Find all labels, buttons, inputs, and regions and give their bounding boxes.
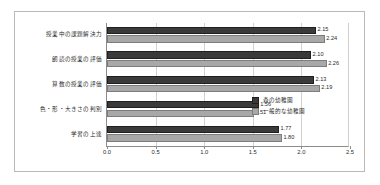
bar-value-label: 2.24 [326, 36, 337, 42]
legend-item: 一般的な幼稚園 [252, 108, 305, 115]
category-label: 朗読の授業の評価 [52, 57, 102, 63]
category-row: 学習の上達1.771.80 [107, 122, 348, 147]
bar-series-a: 2.10 [107, 51, 311, 58]
x-axis-tick-label: 1.0 [200, 150, 208, 156]
bar-series-a: 2.13 [107, 76, 314, 83]
bar-series-b: 2.24 [107, 35, 325, 42]
x-axis-tick-label: 0.5 [152, 150, 160, 156]
legend-label: 一般的な幼稚園 [263, 109, 305, 115]
bar-value-label: 1.80 [283, 135, 294, 141]
category-row: 算数の授業の評価2.132.19 [107, 73, 348, 98]
x-axis-tick-label: 2.0 [297, 150, 305, 156]
x-axis-tick-label: 0.0 [103, 150, 111, 156]
category-row: 授業中の課題解決力2.152.24 [107, 23, 348, 48]
bar-series-a: 1.77 [107, 126, 279, 133]
category-label: 色・形・大きさの判別 [40, 107, 102, 113]
x-axis-tick-label: 2.5 [346, 150, 354, 156]
bar-series-b: 1.51 [107, 110, 254, 117]
bar-value-label: 1.77 [281, 127, 292, 133]
legend: 森の幼稚園一般的な幼稚園 [252, 97, 305, 115]
category-label: 授業中の課題解決力 [46, 33, 102, 39]
bar-series-b: 2.26 [107, 60, 327, 67]
bar-series-b: 2.19 [107, 85, 320, 92]
bar-value-label: 2.15 [317, 27, 328, 33]
legend-label: 森の幼稚園 [263, 98, 293, 104]
plot-area: 0.00.51.01.52.02.5授業中の課題解決力2.152.24朗読の授業… [106, 23, 349, 147]
x-axis-tick-label: 1.5 [249, 150, 257, 156]
bar-series-b: 1.80 [107, 134, 282, 141]
bar-value-label: 2.13 [316, 77, 327, 83]
chart-card: 0.00.51.01.52.02.5授業中の課題解決力2.152.24朗読の授業… [14, 11, 365, 172]
legend-swatch-icon [252, 108, 259, 115]
bar-value-label: 2.10 [313, 52, 324, 58]
bar-value-label: 2.19 [321, 86, 332, 92]
bar-series-a: 2.15 [107, 27, 316, 34]
category-row: 色・形・大きさの判別1.561.51 [107, 97, 348, 122]
bar-value-label: 2.26 [328, 61, 339, 67]
bar-series-a: 1.56 [107, 101, 259, 108]
category-label: 学習の上達 [71, 132, 102, 138]
legend-swatch-icon [252, 97, 259, 104]
category-row: 朗読の授業の評価2.102.26 [107, 48, 348, 73]
category-label: 算数の授業の評価 [52, 82, 102, 88]
legend-item: 森の幼稚園 [252, 97, 305, 104]
